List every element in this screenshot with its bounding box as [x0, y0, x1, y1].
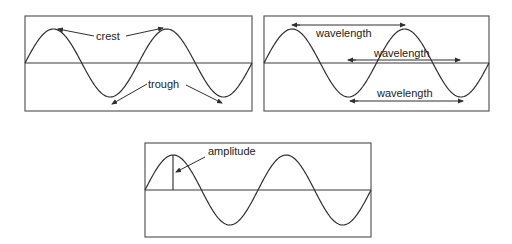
wave-diagram: crest trough wavelength wavelength wavel…: [0, 0, 512, 244]
crest-trough-panel: crest trough: [25, 16, 252, 111]
crest-arrow-right: [126, 28, 163, 36]
trough-label: trough: [148, 78, 179, 90]
wavelength-top-label: wavelength: [315, 27, 372, 39]
crest-label: crest: [96, 30, 120, 42]
wavelength-panel: wavelength wavelength wavelength: [264, 16, 489, 111]
wavelength-bottom-label: wavelength: [376, 87, 433, 99]
wavelength-middle-label: wavelength: [373, 47, 430, 59]
amplitude-label: amplitude: [208, 145, 256, 157]
amplitude-panel: amplitude: [145, 143, 371, 237]
